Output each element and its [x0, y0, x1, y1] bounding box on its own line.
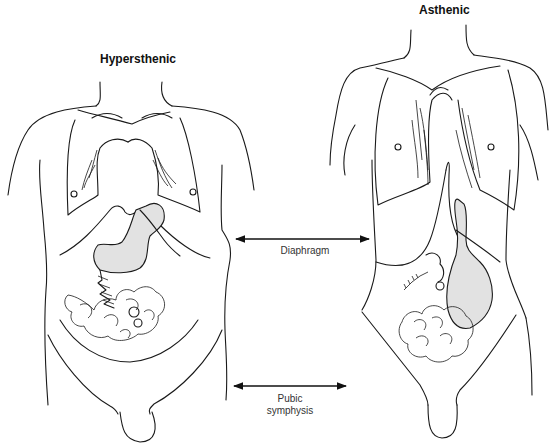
pubic-symphysis-label: Pubic symphysis: [255, 393, 325, 417]
pubic-symphysis-label-line2: symphysis: [255, 405, 325, 417]
diaphragm-label: Diaphragm: [270, 245, 340, 257]
asthenic-figure: [330, 25, 548, 438]
anatomy-illustration: [0, 0, 552, 445]
hypersthenic-figure: [8, 82, 254, 442]
pubic-symphysis-label-line1: Pubic: [255, 393, 325, 405]
